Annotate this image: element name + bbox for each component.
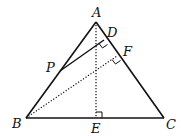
label-C: C <box>166 117 176 132</box>
label-P: P <box>45 60 55 75</box>
label-B: B <box>11 116 22 131</box>
geometry-diagram: A B C D E F P <box>0 0 181 140</box>
label-E: E <box>90 121 101 136</box>
right-angle-mark-D <box>99 44 108 49</box>
label-F: F <box>122 44 133 59</box>
right-angle-mark-F <box>112 60 121 65</box>
segment-BF-dotted <box>26 56 117 118</box>
label-A: A <box>91 5 101 20</box>
segment-PD <box>60 40 104 71</box>
right-angle-mark-E <box>96 112 102 118</box>
label-D: D <box>106 25 118 40</box>
